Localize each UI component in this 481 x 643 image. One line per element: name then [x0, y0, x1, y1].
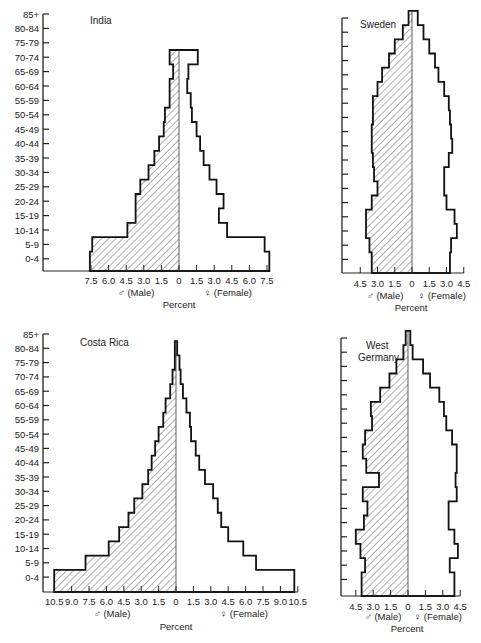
age-label: 20-24 [15, 196, 39, 207]
x-tick-label: 7.5 [256, 596, 269, 607]
x-tick-label: 3.0 [440, 278, 453, 289]
age-axis-labels: 85+80-8475-7970-7465-6960-6455-5950-5445… [15, 9, 49, 272]
age-label: 10-14 [15, 543, 39, 554]
age-label: 50-54 [15, 429, 39, 440]
female-outline [412, 11, 457, 273]
age-axis-labels: 85+80-8475-7970-7465-6960-6455-5950-5445… [15, 329, 49, 593]
x-tick-label: 1.5 [152, 596, 165, 607]
panel-title-west-germany-line2: Germany [358, 352, 399, 363]
panel-title-west-germany-line1: West [366, 340, 389, 351]
x-tick-label: 4.5 [222, 596, 235, 607]
x-tick-label: 4.5 [349, 601, 362, 612]
x-tick-label: 4.5 [354, 278, 367, 289]
age-label: 80-84 [15, 343, 39, 354]
age-label: 35-39 [15, 472, 39, 483]
x-tick-label: 1.5 [388, 278, 401, 289]
age-label: 15-19 [15, 529, 39, 540]
age-label: 65-69 [15, 66, 39, 77]
x-tick-label: 6.0 [243, 275, 256, 286]
pyramid-sweden [366, 11, 457, 273]
pyramid-west-germany [356, 331, 458, 596]
male-label: ♂ (Male) [365, 611, 402, 622]
panel-india: India 85+80-8475-7970-7465-6960-6455-595… [15, 9, 274, 311]
x-tick-label: 3.0 [204, 596, 217, 607]
age-label: 25-29 [15, 181, 39, 192]
x-tick-label: 4.5 [225, 275, 238, 286]
x-tick-label: 3.0 [135, 596, 148, 607]
age-label: 5-9 [25, 239, 39, 250]
x-tick-label: 3.0 [371, 278, 384, 289]
age-label: 30-34 [15, 167, 39, 178]
female-label: ♀ (Female) [414, 611, 462, 622]
x-tick-label: 7.5 [82, 596, 95, 607]
male-label: ♂ (Male) [94, 608, 131, 619]
age-label: 70-74 [15, 371, 39, 382]
x-tick-label: 10.5 [289, 596, 308, 607]
male-label: ♂ (Male) [367, 290, 404, 301]
x-tick-label: 6.0 [239, 596, 252, 607]
panel-title-costa-rica: Costa Rica [80, 337, 129, 348]
age-label: 35-39 [15, 153, 39, 164]
percent-label: Percent [163, 299, 196, 310]
female-outline [176, 341, 294, 592]
age-label: 75-79 [15, 37, 39, 48]
age-label: 0-4 [25, 253, 39, 264]
x-tick-label: 0 [409, 278, 414, 289]
age-label: 60-64 [15, 400, 39, 411]
age-label: 30-34 [15, 486, 39, 497]
male-label: ♂ (Male) [118, 287, 155, 298]
x-tick-label: 3.0 [137, 275, 150, 286]
panel-west-germany: West Germany 4.53.01.501.53.04.5 ♂ (Male… [341, 331, 467, 634]
pyramid-costa-rica [54, 341, 294, 592]
panel-costa-rica: Costa Rica 85+80-8475-7970-7465-6960-645… [15, 329, 307, 633]
age-label: 85+ [23, 9, 40, 20]
age-label: 60-64 [15, 81, 39, 92]
age-axis-ticks [341, 338, 347, 596]
x-tick-label: 3.0 [208, 275, 221, 286]
age-label: 20-24 [15, 514, 39, 525]
x-tick-label: 9.0 [65, 596, 78, 607]
female-label: ♀ (Female) [220, 608, 268, 619]
age-label: 50-54 [15, 109, 39, 120]
age-label: 75-79 [15, 357, 39, 368]
age-label: 10-14 [15, 225, 39, 236]
panel-title-india: India [90, 15, 112, 26]
x-tick-label: 7.5 [260, 275, 273, 286]
x-tick-label: 6.0 [100, 596, 113, 607]
female-outline [179, 50, 269, 271]
age-label: 45-49 [15, 124, 39, 135]
female-label: ♀ (Female) [204, 287, 252, 298]
age-label: 80-84 [15, 23, 39, 34]
x-tick-label: 4.5 [120, 275, 133, 286]
x-tick-label: 1.5 [187, 596, 200, 607]
age-axis-ticks [342, 18, 348, 273]
age-label: 5-9 [25, 557, 39, 568]
x-tick-label: 7.5 [84, 275, 97, 286]
population-pyramids-figure: India 85+80-8475-7970-7465-6960-6455-595… [0, 0, 481, 643]
male-bars [366, 11, 412, 273]
age-label: 65-69 [15, 386, 39, 397]
percent-label: Percent [395, 302, 428, 313]
female-label: ♀ (Female) [418, 290, 466, 301]
female-outline [408, 331, 458, 596]
x-tick-label: 9.0 [274, 596, 287, 607]
x-tick-label: 10.5 [45, 596, 64, 607]
age-label: 25-29 [15, 500, 39, 511]
x-tick-label: 0 [176, 275, 181, 286]
x-tick-label: 4.5 [457, 278, 470, 289]
x-tick-label: 6.0 [102, 275, 115, 286]
pyramid-india [90, 50, 269, 271]
age-label: 85+ [23, 329, 40, 340]
age-label: 70-74 [15, 52, 39, 63]
age-label: 55-59 [15, 414, 39, 425]
panel-title-sweden: Sweden [360, 19, 396, 30]
x-tick-label: 4.5 [117, 596, 130, 607]
age-label: 40-44 [15, 457, 39, 468]
age-label: 55-59 [15, 95, 39, 106]
x-tick-label: 0 [173, 596, 178, 607]
age-label: 40-44 [15, 138, 39, 149]
age-label: 45-49 [15, 443, 39, 454]
x-tick-label: 1.5 [155, 275, 168, 286]
percent-label: Percent [391, 623, 424, 634]
percent-label: Percent [160, 621, 193, 632]
